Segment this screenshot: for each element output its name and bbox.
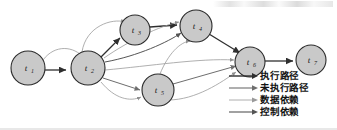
edge-t4-t6-exec (209, 34, 240, 53)
legend-item-exec: 执行路径 (228, 70, 337, 82)
legend-label-data: 数据依赖 (260, 94, 299, 106)
node-t2-subscript: 2 (91, 68, 94, 74)
node-t1[interactable]: t 1 (11, 51, 45, 85)
node-t3[interactable]: t 3 (120, 15, 150, 45)
edge-t2-t5-nonexec (103, 78, 140, 90)
legend-item-control: 控制依赖 (228, 106, 337, 118)
node-t4-subscript: 4 (199, 26, 202, 32)
legend: 执行路径 未执行路径 数据依赖 控制依赖 (228, 70, 337, 118)
node-t1-subscript: 1 (31, 68, 34, 74)
legend-swatch-exec-icon (228, 70, 260, 82)
node-t5[interactable]: t 5 (142, 74, 174, 106)
legend-label-control: 控制依赖 (260, 106, 299, 118)
scan-artifact-bottom (0, 128, 337, 130)
node-t2[interactable]: t 2 (71, 51, 105, 85)
legend-swatch-data-icon (228, 94, 260, 106)
node-t6-subscript: 6 (253, 62, 256, 68)
legend-item-data: 数据依赖 (228, 94, 337, 106)
node-t5-subscript: 5 (161, 90, 164, 96)
edge-t2-t6-data (105, 60, 234, 70)
edge-t2-t3-data (82, 21, 125, 52)
legend-item-nonexec: 未执行路径 (228, 82, 337, 94)
edge-t2-t3-exec (100, 38, 120, 58)
legend-swatch-control-icon (228, 106, 260, 118)
figure-canvas: t 1 t 2 t 3 t 4 t 5 (0, 0, 337, 130)
legend-label-nonexec: 未执行路径 (260, 82, 309, 94)
node-t3-subscript: 3 (137, 30, 141, 36)
edge-t2-t5-data (101, 82, 141, 99)
node-t4[interactable]: t 4 (180, 10, 212, 42)
legend-swatch-nonexec-icon (228, 82, 260, 94)
legend-label-exec: 执行路径 (260, 70, 299, 82)
edge-t5-t6-nonexec (173, 66, 236, 84)
edge-t5-t4-data (160, 41, 190, 74)
